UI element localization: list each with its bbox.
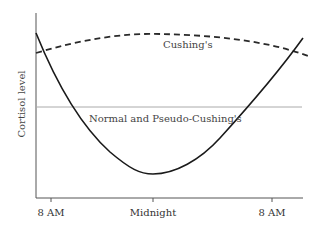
- x-tick-label-8am-right: 8 AM: [258, 207, 285, 218]
- x-tick-label-8am-left: 8 AM: [37, 207, 64, 218]
- cushings-label: Cushing's: [163, 39, 213, 50]
- cortisol-diurnal-chart: Cushing's Normal and Pseudo-Cushing's Co…: [0, 0, 323, 233]
- normal-curve: [36, 33, 303, 174]
- x-tick-label-midnight: Midnight: [130, 207, 176, 218]
- normal-label: Normal and Pseudo-Cushing's: [89, 113, 242, 124]
- y-axis-label: Cortisol level: [16, 70, 27, 137]
